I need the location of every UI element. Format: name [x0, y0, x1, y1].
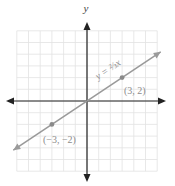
- coordinate-plane: y y = ⅔x (3, 2) (−3, −2): [0, 0, 175, 186]
- y-axis-down-arrow-icon: [84, 174, 91, 182]
- y-axis-label: y: [83, 2, 89, 14]
- x-axis-left-arrow-icon: [6, 98, 14, 105]
- x-axis-right-arrow-icon: [158, 98, 166, 105]
- y-axis-up-arrow-icon: [84, 22, 91, 30]
- line-arrow-up-right-icon: [153, 52, 161, 59]
- data-point: [50, 122, 55, 127]
- data-point: [120, 75, 125, 80]
- point-label-3-2: (3, 2): [124, 85, 146, 97]
- line-arrow-down-left-icon: [13, 144, 21, 151]
- point-label-neg3-neg2: (−3, −2): [43, 134, 76, 146]
- equation-label: y = ⅔x: [92, 57, 123, 83]
